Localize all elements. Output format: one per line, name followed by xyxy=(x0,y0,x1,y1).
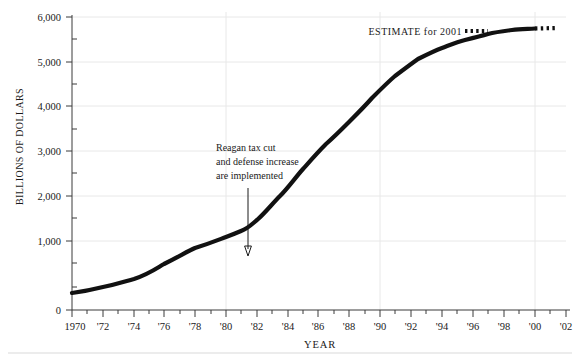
data-series-estimate xyxy=(535,28,557,29)
x-axis-major-ticks xyxy=(72,310,566,317)
x-tick-label: '90 xyxy=(374,321,386,332)
y-tick-label: 5,000 xyxy=(37,57,61,68)
line-chart: 6,000 5,000 4,000 3,000 2,000 1,000 0 BI… xyxy=(0,0,580,355)
annotation-line-2: and defense increase xyxy=(216,156,299,167)
x-tick-label: '94 xyxy=(436,321,449,332)
y-axis-title: BILLIONS OF DOLLARS xyxy=(14,88,25,205)
y-tick-label: 3,000 xyxy=(37,146,61,157)
horizontal-gridlines xyxy=(72,17,566,241)
annotation-line-3: are implemented xyxy=(216,170,283,181)
x-tick-label: '88 xyxy=(343,321,355,332)
chart-figure: 6,000 5,000 4,000 3,000 2,000 1,000 0 BI… xyxy=(0,0,580,355)
y-tick-label: 0 xyxy=(56,305,61,316)
x-axis-tick-labels: 1970 '72 '74 '76 '78 '80 '82 '84 '86 '88… xyxy=(65,321,573,332)
annotation-line-1: Reagan tax cut xyxy=(216,142,276,153)
x-tick-label: '96 xyxy=(467,321,479,332)
y-axis-major-ticks xyxy=(66,17,72,310)
x-tick-label: '80 xyxy=(220,321,232,332)
y-tick-label: 4,000 xyxy=(37,101,61,112)
x-tick-label: '02 xyxy=(560,321,572,332)
y-tick-label: 6,000 xyxy=(37,12,61,23)
x-tick-label: '98 xyxy=(498,321,510,332)
x-axis-title: YEAR xyxy=(304,339,336,350)
y-axis-tick-labels: 6,000 5,000 4,000 3,000 2,000 1,000 0 xyxy=(37,12,61,316)
estimate-annotation: ESTIMATE for 2001 xyxy=(369,26,489,37)
x-tick-label: '82 xyxy=(251,321,263,332)
x-tick-label: '74 xyxy=(128,321,141,332)
x-tick-label: '84 xyxy=(282,321,295,332)
y-axis-minor-ticks xyxy=(72,39,77,287)
x-tick-label: 1970 xyxy=(65,321,86,332)
x-tick-label: '78 xyxy=(189,321,201,332)
x-tick-label: '00 xyxy=(529,321,541,332)
x-tick-label: '92 xyxy=(405,321,417,332)
data-series-actual xyxy=(72,29,535,294)
estimate-label: ESTIMATE for 2001 xyxy=(369,26,463,37)
x-tick-label: '86 xyxy=(312,321,324,332)
reagan-annotation: Reagan tax cut and defense increase are … xyxy=(216,142,299,256)
x-tick-label: '72 xyxy=(97,321,109,332)
x-tick-label: '76 xyxy=(158,321,170,332)
y-tick-label: 1,000 xyxy=(37,236,61,247)
y-tick-label: 2,000 xyxy=(37,191,61,202)
